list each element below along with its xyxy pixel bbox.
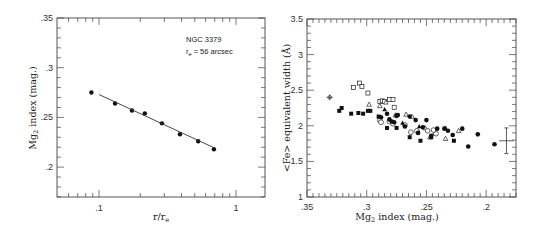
x-tick-label: .2 xyxy=(482,202,490,212)
filled-triangle-marker xyxy=(382,107,387,111)
error-bar xyxy=(499,128,513,154)
filled-circle-marker xyxy=(475,132,480,137)
filled-circle-marker xyxy=(379,115,384,120)
filled-circle-marker xyxy=(416,131,421,136)
filled-circle-marker xyxy=(435,126,440,131)
filled-circle-marker xyxy=(403,124,408,129)
filled-circle-marker xyxy=(429,133,434,138)
y-tick-label: .3 xyxy=(45,63,53,73)
filled-circle-marker xyxy=(466,144,471,149)
open-triangle-marker xyxy=(443,136,448,140)
left-panel-mg2-gradient: .11.2.25.3.35 NGC 3379 re = 56 arcsec r/… xyxy=(27,13,265,224)
x-tick-label: .35 xyxy=(301,202,314,212)
open-circle-marker xyxy=(379,120,384,125)
left-annotation-radius: re = 56 arcsec xyxy=(186,47,233,57)
filled-square-marker xyxy=(349,112,353,116)
left-data-points xyxy=(89,90,216,151)
right-y-axis-label: <Fe> equivalent width (Å) xyxy=(281,44,292,173)
filled-square-marker xyxy=(361,112,365,116)
y-tick-label: 2.5 xyxy=(290,85,303,95)
right-axis-ticks xyxy=(307,19,516,197)
filled-circle-marker xyxy=(460,126,465,131)
fit-line xyxy=(99,95,214,148)
figure: .11.2.25.3.35 NGC 3379 re = 56 arcsec r/… xyxy=(0,0,545,231)
left-x-axis-label: r/re xyxy=(153,211,169,224)
y-tick-label: 3 xyxy=(298,50,303,60)
x-tick-label: .1 xyxy=(95,203,103,213)
open-square-marker xyxy=(391,97,395,101)
right-data-points xyxy=(327,81,514,153)
left-y-axis-label: Mg2 index (mag.) xyxy=(27,66,40,149)
y-tick-label: .25 xyxy=(40,112,53,122)
open-circle-marker xyxy=(409,130,414,135)
left-plot-frame xyxy=(57,18,265,197)
filled-circle-marker xyxy=(424,118,429,123)
filled-circle-marker xyxy=(413,118,418,123)
filled-square-marker xyxy=(452,139,456,143)
open-square-marker xyxy=(360,85,364,89)
filled-circle-marker xyxy=(421,125,426,130)
right-panel-fe-vs-mg2: .35.3.25.211.522.533.5 Mg2 index (mag.) … xyxy=(281,14,516,224)
filled-circle-marker xyxy=(392,120,397,125)
open-triangle-marker xyxy=(367,102,372,106)
open-square-marker xyxy=(352,85,356,89)
filled-circle-marker xyxy=(492,142,497,147)
right-plot-frame xyxy=(307,19,516,197)
filled-circle-marker xyxy=(395,113,400,118)
filled-square-marker xyxy=(395,126,399,130)
y-tick-label: 3.5 xyxy=(290,14,303,24)
right-x-axis-label: Mg2 index (mag.) xyxy=(355,211,438,224)
filled-circle-marker xyxy=(407,114,412,119)
y-tick-label: 1 xyxy=(298,192,303,202)
filled-square-marker xyxy=(418,139,422,143)
data-point xyxy=(89,90,93,94)
x-tick-label: 1 xyxy=(233,203,238,213)
filled-square-marker xyxy=(356,111,360,115)
filled-square-marker xyxy=(340,106,344,110)
filled-circle-marker xyxy=(450,133,455,138)
left-annotation-galaxy: NGC 3379 xyxy=(186,35,221,44)
open-square-marker xyxy=(366,91,370,95)
open-circle-marker xyxy=(425,128,430,133)
open-triangle-marker xyxy=(378,103,383,107)
right-tick-labels: .35.3.25.211.522.533.5 xyxy=(290,14,489,212)
filled-circle-marker xyxy=(385,111,390,116)
y-tick-label: .2 xyxy=(45,162,53,172)
y-tick-label: 2 xyxy=(298,121,303,131)
filled-square-marker xyxy=(385,126,389,130)
y-tick-label: .35 xyxy=(40,13,53,23)
filled-square-marker xyxy=(408,135,412,139)
open-square-marker xyxy=(392,105,396,109)
left-axis-ticks xyxy=(57,18,265,197)
y-tick-label: 1.5 xyxy=(290,156,303,166)
filled-square-marker xyxy=(368,109,372,113)
